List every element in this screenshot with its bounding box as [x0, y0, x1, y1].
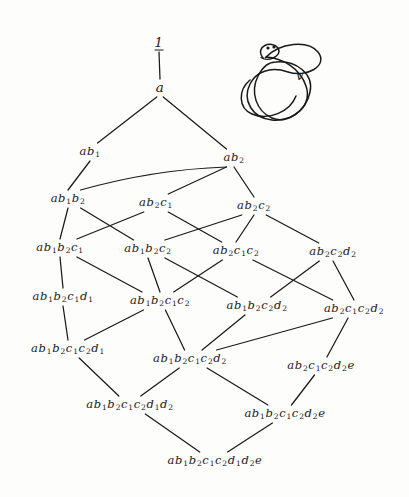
lattice-edge-ab1b2c1c2d2-to-ab1b2c1c2d1d2	[141, 368, 179, 396]
lattice-edge-ab1-to-ab1b2	[68, 161, 90, 190]
lattice-node-ab2c2: ab2c2	[237, 200, 271, 212]
lattice-edge-ab2-to-ab2c2	[234, 167, 254, 197]
lattice-edge-ab1b2c2-to-ab1b2c1c2	[148, 258, 160, 292]
lattice-node-ab1b2c2d2: ab1b2c2d2	[226, 300, 287, 312]
lattice-edge-ab1b2c1c2d2-to-ab1b2c1c2d2e	[207, 368, 268, 405]
lattice-node-ab2c1c2: ab2c1c2	[213, 245, 260, 257]
lattice-edge-ab1b2c2-to-ab1b2c2d2	[165, 258, 237, 297]
lattice-node-ab1b2c2: ab1b2c2	[124, 243, 171, 255]
lattice-edge-ab1b2c1c2d2e-to-ab1b2c1c2d1d2e	[228, 423, 273, 452]
lattice-node-ab2c1c2d2: ab2c1c2d2	[324, 303, 384, 315]
knot-dot-right	[272, 45, 275, 48]
lattice-node-one: 1	[155, 36, 164, 51]
lattice-edge-a-to-ab1	[98, 97, 157, 143]
lattice-edge-ab2-to-ab2c1	[168, 167, 226, 194]
lattice-node-ab1b2c1c2d2: ab1b2c1c2d2	[153, 353, 227, 365]
lattice-node-ab1b2c1d1: ab1b2c1d1	[32, 291, 93, 303]
lattice-edge-ab2c1-to-ab1b2c1	[77, 212, 144, 239]
lattice-edge-ab2c1-to-ab2c1c2	[168, 212, 221, 242]
lattice-edge-ab2c1c2d2-to-ab1b2c1c2d2	[217, 318, 333, 350]
lattice-edge-ab1b2c1c2-to-ab1b2c1c2d1	[85, 310, 144, 340]
lattice-diagram-page: v 1aab1ab2ab1b2ab2c1ab2c2ab1b2c1ab1b2c2a…	[0, 0, 409, 497]
lattice-edge-ab1b2c1c2-to-ab1b2c1c2d2	[165, 310, 184, 350]
lattice-node-ab2c2d2: ab2c2d2	[309, 246, 356, 258]
lattice-node-ab1b2c1c2: ab1b2c1c2	[130, 295, 190, 307]
lattice-node-ab1: ab1	[79, 146, 100, 158]
lattice-edge-ab1b2c1-to-ab1b2c1c2	[77, 257, 142, 292]
lattice-node-ab1b2c1c2d1: ab1b2c1c2d1	[31, 343, 105, 355]
lattice-edge-ab2c1c2d2e-to-ab1b2c1c2d2e	[291, 375, 314, 405]
lattice-edge-ab2-to-ab1b2	[81, 167, 227, 190]
lattice-edge-ab1b2c2d2-to-ab1b2c1c2d2	[202, 315, 245, 350]
lattice-edge-ab2c2d2-to-ab2c1c2d2	[333, 261, 354, 300]
lattice-node-ab1b2c1: ab1b2c1	[36, 242, 83, 254]
lattice-edge-ab2c2-to-ab2c2d2	[266, 215, 319, 243]
lattice-node-a: a	[156, 81, 165, 95]
lattice-edge-ab2c2-to-ab2c1c2	[236, 215, 254, 242]
lattice-node-ab1b2c1c2d2e: ab1b2c1c2d2e	[244, 408, 325, 420]
lattice-node-ab1b2c1c2d1d2: ab1b2c1c2d1d2	[86, 399, 173, 411]
lattice-edge-ab1b2c1c2d1d2-to-ab1b2c1c2d1d2e	[145, 414, 199, 452]
lattice-node-ab1b2: ab1b2	[51, 193, 86, 205]
lattice-edge-ab1b2-to-ab1b2c2	[81, 208, 134, 240]
lattice-edge-ab1b2c1c2d1-to-ab1b2c1c2d1d2	[79, 358, 119, 396]
lattice-edge-ab1b2c1-to-ab1b2c1d1	[60, 257, 63, 288]
lattice-node-ab2: ab2	[223, 152, 244, 164]
lattice-edge-ab2c1c2d2-to-ab2c1c2d2e	[327, 318, 348, 357]
lattice-node-ab2c1: ab2c1	[139, 197, 173, 209]
knot-label: v	[296, 68, 303, 83]
knot-curves	[241, 44, 321, 120]
lattice-edge-ab1b2c1d1-to-ab1b2c1c2d1	[63, 306, 68, 340]
lattice-edge-ab2c2d2-to-ab1b2c2d2	[271, 261, 320, 297]
lattice-node-ab1b2c1c2d1d2e: ab1b2c1c2d1d2e	[168, 455, 263, 467]
lattice-edge-ab2c1c2-to-ab2c1c2d2	[253, 260, 333, 300]
lattice-edge-a-to-ab2	[163, 97, 226, 149]
lattice-edge-ab2c1c2-to-ab1b2c1c2	[174, 260, 223, 292]
lattice-edge-one-to-a	[159, 52, 160, 79]
lattice-node-ab2c1c2d2e: ab2c1c2d2e	[287, 360, 355, 372]
lattice-edge-ab1b2-to-ab1b2c1	[60, 208, 68, 239]
lattice-edge-ab2c2-to-ab1b2c2	[165, 215, 242, 240]
knot-dot-left	[266, 46, 269, 49]
